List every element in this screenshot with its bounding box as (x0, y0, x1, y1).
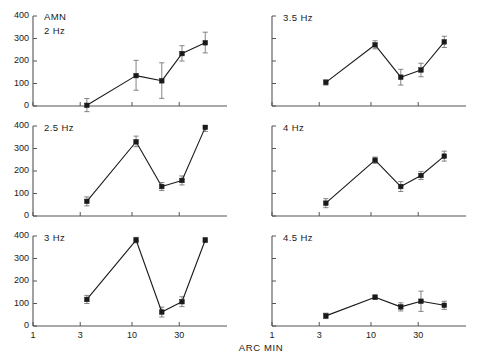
data-point (419, 299, 424, 304)
x-tick-label: 3 (309, 330, 329, 340)
data-point (442, 303, 447, 308)
x-tick-label: 1 (262, 330, 282, 340)
group-label-amn: AMN (44, 11, 66, 22)
data-point (373, 295, 378, 300)
plot-area (0, 0, 481, 364)
panel-label: 4.5 Hz (283, 232, 313, 244)
data-point (398, 305, 403, 310)
x-axis-title: ARC MIN (201, 342, 321, 353)
data-point (324, 314, 329, 319)
x-tick-label: 10 (361, 330, 381, 340)
x-tick-label: 30 (408, 330, 428, 340)
figure-multi-panel-chart: 2 Hz01002003004002.5 Hz01002003004003 Hz… (0, 0, 481, 364)
